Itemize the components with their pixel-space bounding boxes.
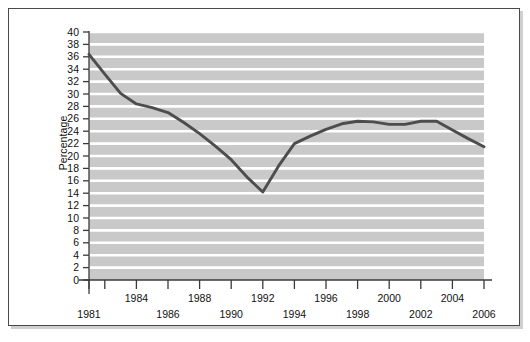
x-tick-label: 2002 xyxy=(409,308,433,320)
y-tick-label: 10 xyxy=(67,212,79,224)
y-tick-label: 20 xyxy=(67,150,79,162)
y-tick-label: 32 xyxy=(67,75,79,87)
y-tick-label: 28 xyxy=(67,100,79,112)
chart-figure: Percentage 02468101214161820222426283032… xyxy=(0,0,530,342)
y-tick-label: 18 xyxy=(67,162,79,174)
y-tick-label: 0 xyxy=(73,274,79,286)
x-tick-labels-upper: 198419881992199620002004 xyxy=(125,292,465,304)
y-tick-label: 6 xyxy=(73,236,79,248)
y-tick-label: 36 xyxy=(67,50,79,62)
x-tick-label: 2000 xyxy=(378,292,402,304)
y-tick-label: 8 xyxy=(73,224,79,236)
y-tick-label: 24 xyxy=(67,125,79,137)
y-tick-label: 40 xyxy=(67,26,79,38)
y-tick-label: 38 xyxy=(67,38,79,50)
y-tick-label: 4 xyxy=(73,249,79,261)
y-tick-label: 14 xyxy=(67,187,79,199)
x-tick-label: 1981 xyxy=(77,308,101,320)
x-tick-label: 1998 xyxy=(346,308,370,320)
x-tick-label: 1994 xyxy=(283,308,307,320)
x-tick-label: 1986 xyxy=(156,308,180,320)
y-tick-label: 22 xyxy=(67,137,79,149)
y-tick-label: 16 xyxy=(67,174,79,186)
x-tick-label: 2004 xyxy=(441,292,465,304)
x-tick-labels-lower: 1981198619901994199820022006 xyxy=(77,308,496,320)
x-tick-label: 1988 xyxy=(188,292,212,304)
x-tick-label: 2006 xyxy=(472,308,496,320)
y-tick-label: 34 xyxy=(67,63,79,75)
y-tick-label: 2 xyxy=(73,261,79,273)
x-tick-label: 1996 xyxy=(314,292,338,304)
y-tick-label: 26 xyxy=(67,112,79,124)
y-tick-label: 12 xyxy=(67,199,79,211)
x-tick-label: 1990 xyxy=(220,308,244,320)
y-tick-label: 30 xyxy=(67,88,79,100)
y-axis-ticks: 0246810121416182022242628303234363840 xyxy=(67,26,89,286)
chart-frame: Percentage 02468101214161820222426283032… xyxy=(8,8,520,326)
x-axis-ticks xyxy=(89,280,484,289)
x-tick-label: 1992 xyxy=(251,292,275,304)
line-chart-plot: 0246810121416182022242628303234363840198… xyxy=(9,9,521,327)
x-tick-label: 1984 xyxy=(125,292,149,304)
y-axis-title: Percentage xyxy=(57,83,69,203)
